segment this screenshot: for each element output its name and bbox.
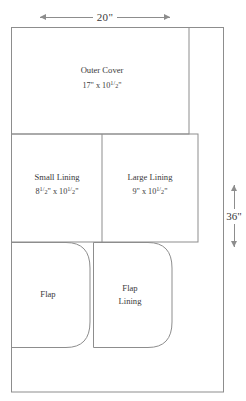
large-lining-dims-suffix: " xyxy=(164,187,167,196)
fabric-sheet: Outer Cover 17" x 101/2" Small Lining 81… xyxy=(0,0,246,401)
cutting-layout-diagram: 20" 36" Outer Cover 17" x 101/2" xyxy=(0,0,246,401)
outer-cover-label: Outer Cover xyxy=(81,65,124,75)
small-lining-dims-mid: " x 10 xyxy=(48,187,68,196)
flap-lining-label-line1: Flap xyxy=(122,283,137,293)
flap-lining-label-line2: Lining xyxy=(119,296,143,306)
small-lining-dims-suffix: " xyxy=(75,187,78,196)
large-lining-dims: 9" x 101/2" xyxy=(132,185,167,196)
small-lining-dims: 81/2" x 101/2" xyxy=(36,185,79,196)
outer-cover-dims-whole: 17" x 10 xyxy=(82,81,110,90)
flap-lining-shape xyxy=(94,243,173,348)
large-lining-label: Large Lining xyxy=(128,172,174,182)
outer-cover-dims-suffix: " xyxy=(118,81,121,90)
small-lining-label: Small Lining xyxy=(34,172,80,182)
outer-cover-dims: 17" x 101/2" xyxy=(82,79,121,90)
flap-label: Flap xyxy=(40,289,55,299)
large-lining-dims-whole: 9" x 10 xyxy=(132,187,156,196)
